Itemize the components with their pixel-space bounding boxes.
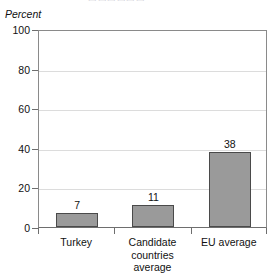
x-axis-category-label-line: countries [114, 249, 190, 262]
x-axis-category-label: EU average [191, 236, 267, 249]
bar [209, 152, 251, 227]
bar-group: 38 [192, 31, 268, 227]
x-axis-tick-marks [38, 228, 267, 234]
bar-value-label: 11 [148, 191, 159, 203]
x-axis-category-label-line: average [114, 261, 190, 274]
bar-value-label: 7 [74, 199, 80, 211]
cut-off-title-fragment: ▭▭▭▭▭▭ [88, 0, 164, 1]
bar [132, 205, 174, 227]
bar-group: 11 [115, 31, 191, 227]
bar-value-label: 38 [224, 138, 236, 150]
bar-group: 7 [39, 31, 115, 227]
y-axis-title: Percent [5, 8, 41, 20]
x-axis-tick-mark [266, 228, 267, 234]
x-axis-tick-mark [38, 228, 39, 234]
x-axis-category-label-line: Candidate [114, 236, 190, 249]
x-axis-category-label: Candidatecountriesaverage [114, 236, 190, 274]
x-axis-tick-mark [114, 228, 115, 234]
x-axis-category-label: Turkey [38, 236, 114, 249]
x-axis-category-labels: TurkeyCandidatecountriesaverageEU averag… [38, 236, 267, 278]
x-axis-category-label-line: Turkey [38, 236, 114, 249]
chart-plot-area: 71138 [38, 30, 267, 228]
y-axis-tick-marks [0, 30, 38, 228]
x-axis-tick-mark [191, 228, 192, 234]
x-axis-category-label-line: EU average [191, 236, 267, 249]
bar [56, 213, 98, 227]
